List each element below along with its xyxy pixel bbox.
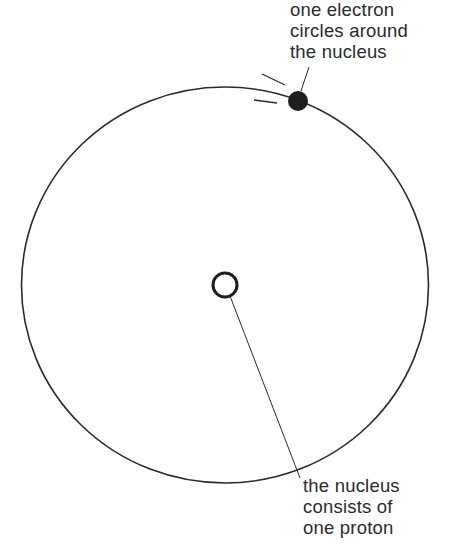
nucleus-label: the nucleus consists of one proton <box>303 475 400 538</box>
nucleus-label-line-2: consists of <box>303 496 400 517</box>
electron-label-line-2: circles around <box>290 20 408 41</box>
nucleus-proton <box>213 273 237 297</box>
electron <box>288 91 308 111</box>
motion-mark-upper <box>262 74 285 85</box>
nucleus-label-line-1: the nucleus <box>303 475 400 496</box>
nucleus-leader-line <box>230 296 300 478</box>
electron-label-line-1: one electron <box>290 0 408 20</box>
electron-label-line-3: the nucleus <box>290 41 408 62</box>
nucleus-label-line-3: one proton <box>303 517 400 538</box>
electron-leader-line <box>301 67 309 91</box>
electron-label: one electron circles around the nucleus <box>290 0 408 62</box>
motion-mark-lower <box>254 100 277 103</box>
